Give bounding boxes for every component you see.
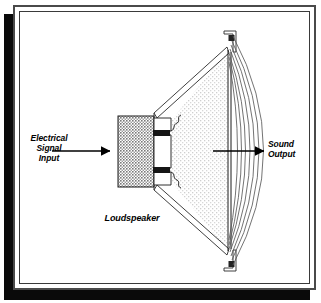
mount-bottom <box>224 250 236 271</box>
label-sound-output: Sound Output <box>268 139 318 159</box>
mount-top <box>224 31 236 52</box>
magnet-block <box>118 116 154 187</box>
label-loudspeaker: Loudspeaker <box>84 213 180 223</box>
label-electrical-signal-input: Electrical Signal Input <box>18 133 80 163</box>
pole-gap-assembly <box>154 118 171 185</box>
voice-coil-upper <box>153 130 170 136</box>
voice-coil-lower <box>153 167 170 173</box>
diagram-canvas: Electrical Signal Input Sound Output Lou… <box>0 0 321 303</box>
